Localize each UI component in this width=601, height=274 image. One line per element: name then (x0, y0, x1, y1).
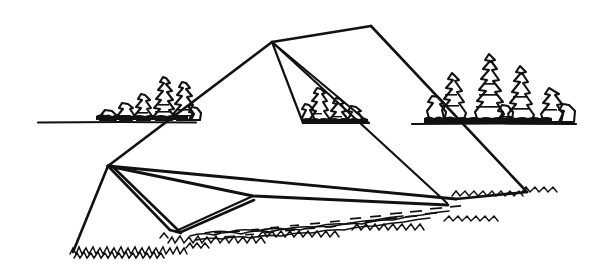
hang-glider-illustration (0, 0, 601, 274)
horizon-line-right (412, 124, 576, 125)
drawing-canvas (0, 0, 601, 274)
horizon-line-left (38, 122, 196, 123)
